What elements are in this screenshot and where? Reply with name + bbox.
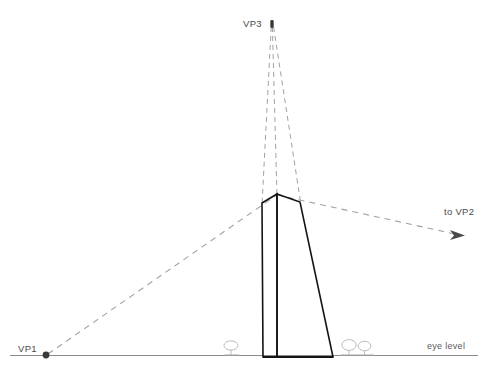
tower-right-face xyxy=(277,194,333,357)
guide-vp3-to-right-edge xyxy=(274,27,301,205)
vp1-label: VP1 xyxy=(18,343,37,354)
vp1-dot xyxy=(43,352,50,359)
vp3-label: VP3 xyxy=(243,18,262,29)
vanishing-point-markers xyxy=(43,20,465,358)
guide-vp3-to-center-edge xyxy=(272,27,277,196)
foliage-group xyxy=(224,340,374,355)
bush-right-a xyxy=(342,340,356,355)
vp2-label: to VP2 xyxy=(444,206,474,217)
guide-vp3-to-left-edge xyxy=(262,27,271,205)
eye-level-label: eye level xyxy=(427,341,465,351)
diagram-canvas: VP1 to VP2 VP3 eye level xyxy=(0,0,485,372)
tower-building xyxy=(262,194,333,357)
perspective-diagram: VP1 to VP2 VP3 eye level xyxy=(0,0,485,372)
bush-left xyxy=(224,341,239,355)
bush-right-b xyxy=(341,341,374,355)
guide-vp1-to-peak xyxy=(48,195,278,355)
guide-peak-to-vp2 xyxy=(277,195,455,234)
vp3-dot xyxy=(270,20,273,28)
tower-left-face xyxy=(262,194,277,357)
vp2-arrowhead xyxy=(450,230,465,240)
construction-lines-group xyxy=(48,27,455,354)
